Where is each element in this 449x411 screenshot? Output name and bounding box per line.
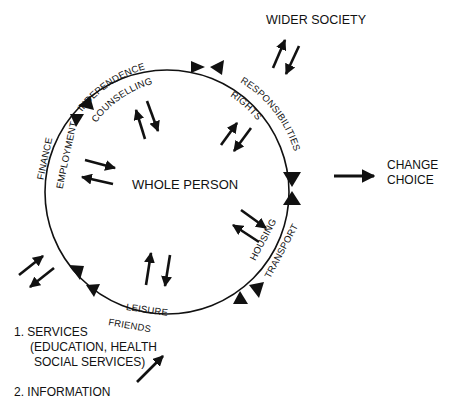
arrow-down-icon bbox=[165, 255, 170, 286]
arc-label-friends: FRIENDS bbox=[108, 316, 152, 334]
information-label: 2. INFORMATION bbox=[14, 386, 110, 398]
arrow-up-icon bbox=[146, 253, 151, 285]
arrow-down-left-icon bbox=[286, 46, 299, 74]
choice-label: CHOICE bbox=[387, 174, 434, 186]
wider-society-label: WIDER SOCIETY bbox=[266, 14, 366, 27]
arrow-left-icon bbox=[82, 177, 113, 184]
arrow-up-right-icon bbox=[19, 256, 43, 275]
change-label: CHANGE bbox=[387, 159, 438, 171]
arc-label-employment: EMPLOYMENT bbox=[54, 120, 79, 189]
center-label: WHOLE PERSON bbox=[132, 178, 238, 191]
arc-label-leisure: LEISURE bbox=[126, 301, 169, 318]
arrow-right-icon bbox=[85, 160, 115, 168]
arrow-up-right-icon bbox=[221, 123, 237, 145]
services-detail-line1: (EDUCATION, HEALTH bbox=[30, 341, 157, 353]
arrow-up-left-icon bbox=[233, 225, 259, 242]
arc-label-finance: FINANCE bbox=[34, 136, 54, 180]
arrow-up-right-icon bbox=[273, 40, 285, 68]
arrow-down-left-icon bbox=[30, 268, 54, 287]
services-label: 1. SERVICES bbox=[14, 326, 88, 338]
arrow-down-icon bbox=[147, 101, 158, 131]
arc-label-counselling: COUNSELLING bbox=[89, 75, 154, 124]
services-detail-line2: SOCIAL SERVICES) bbox=[34, 356, 145, 368]
arrow-up-icon bbox=[136, 110, 145, 139]
arrow-down-left-icon bbox=[234, 128, 251, 151]
arrow-down-right-icon bbox=[241, 210, 266, 228]
arc-labels: INDEPENDENCE COUNSELLING RESPONSIBILITIE… bbox=[34, 61, 302, 335]
